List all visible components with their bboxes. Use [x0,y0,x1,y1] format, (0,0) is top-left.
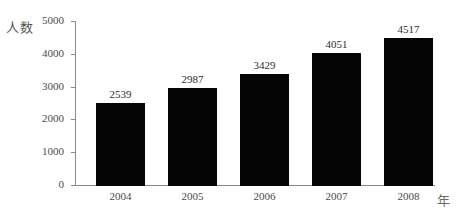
bar-chart: 人数 年 0 1000 2000 3000 4000 5000 2539 298… [0,0,461,215]
bar-2007[interactable]: 4051 [312,53,361,186]
bar-2005[interactable]: 2987 [168,88,217,186]
bar-value-2006: 3429 [254,59,276,71]
y-tick-label-1: 1000 [42,145,64,158]
bar-value-2004: 2539 [110,88,132,100]
y-tick-2: 2000 [71,119,76,120]
x-axis-unit-label: 年 [437,190,450,209]
bar-2008[interactable]: 4517 [384,38,433,186]
bar-value-2008: 4517 [398,23,420,35]
y-tick-5: 5000 [71,21,76,22]
bar-2006[interactable]: 3429 [240,74,289,186]
bar-2004[interactable]: 2539 [96,103,145,186]
x-tick-label-2006: 2006 [240,190,289,203]
x-tick-label-2005: 2005 [168,190,217,203]
bar-value-2005: 2987 [182,73,204,85]
plot-area: 0 1000 2000 3000 4000 5000 2539 2987 342… [75,22,435,186]
y-tick-label-4: 4000 [42,47,64,60]
x-tick-label-2007: 2007 [312,190,361,203]
y-tick-label-2: 2000 [42,112,64,125]
bar-value-2007: 4051 [326,38,348,50]
y-tick-1: 1000 [71,152,76,153]
y-tick-label-0: 0 [59,178,65,191]
y-axis-title: 人数 [6,17,34,36]
x-tick-label-2004: 2004 [96,190,145,203]
y-tick-3: 3000 [71,87,76,88]
y-axis-line [75,22,76,186]
x-tick-label-2008: 2008 [384,190,433,203]
y-tick-4: 4000 [71,54,76,55]
y-tick-label-3: 3000 [42,80,64,93]
y-tick-label-5: 5000 [42,14,64,27]
y-tick-0: 0 [71,185,76,186]
